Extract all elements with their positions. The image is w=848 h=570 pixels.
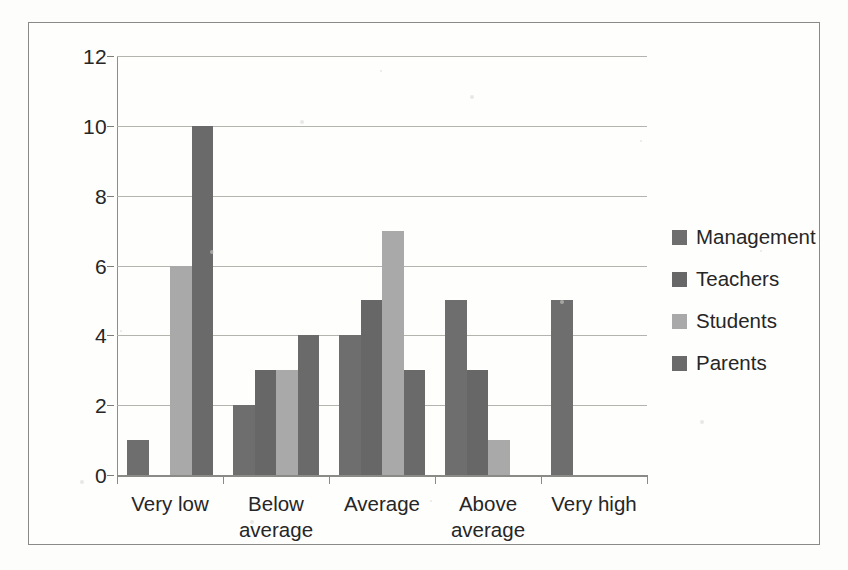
scan-speckle xyxy=(380,70,382,72)
y-tick-mark xyxy=(107,126,114,127)
scan-speckle xyxy=(640,140,642,142)
legend-item[interactable]: Teachers xyxy=(672,258,816,300)
y-tick-mark xyxy=(107,266,114,267)
x-tick-label-line: Very low xyxy=(117,491,223,517)
legend-label: Students xyxy=(696,311,777,332)
x-tick-mark xyxy=(435,475,436,484)
chart-frame: 024681012 Very lowBelowaverageAverageAbo… xyxy=(28,22,820,545)
legend-label: Teachers xyxy=(696,269,779,290)
x-tick-label: Average xyxy=(329,491,435,517)
legend-item[interactable]: Management xyxy=(672,216,816,258)
plot-area xyxy=(117,56,647,475)
legend-swatch-icon xyxy=(672,356,687,371)
scan-speckle xyxy=(560,300,564,304)
bar-group xyxy=(435,56,541,475)
bar-group xyxy=(223,56,329,475)
y-axis-labels: 024681012 xyxy=(59,56,107,475)
bar xyxy=(445,300,467,475)
y-tick-label: 2 xyxy=(95,395,107,416)
scanned-page: 024681012 Very lowBelowaverageAverageAbo… xyxy=(0,0,848,570)
bar xyxy=(255,370,277,475)
scan-speckle xyxy=(430,500,432,502)
y-tick-label: 0 xyxy=(95,465,107,486)
y-tick-mark xyxy=(107,475,114,476)
legend-swatch-icon xyxy=(672,230,687,245)
scan-speckle xyxy=(120,330,122,332)
bar xyxy=(361,300,383,475)
bar xyxy=(127,440,149,475)
legend-label: Parents xyxy=(696,353,767,374)
y-tick-label: 12 xyxy=(83,46,107,67)
y-tick-mark xyxy=(107,335,114,336)
scan-speckle xyxy=(250,520,254,524)
scan-speckle xyxy=(700,420,704,424)
bar xyxy=(382,231,404,475)
x-tick-label: Very high xyxy=(541,491,647,517)
scan-speckle xyxy=(300,120,304,124)
bar xyxy=(467,370,489,475)
bar xyxy=(170,266,192,476)
y-tick-label: 8 xyxy=(95,185,107,206)
x-axis-line xyxy=(117,475,648,477)
x-tick-label: Very low xyxy=(117,491,223,517)
scan-speckle xyxy=(80,480,84,484)
bar xyxy=(233,405,255,475)
x-tick-mark xyxy=(647,475,648,484)
x-tick-mark xyxy=(117,475,118,484)
bar-group xyxy=(117,56,223,475)
scan-speckle xyxy=(470,95,474,99)
bar xyxy=(298,335,320,475)
bar xyxy=(404,370,426,475)
x-tick-label-line: Above xyxy=(435,491,541,517)
bar xyxy=(192,126,214,475)
x-tick-label-line: average xyxy=(223,517,329,543)
y-tick-mark xyxy=(107,405,114,406)
bar-group xyxy=(541,56,647,475)
y-tick-label: 6 xyxy=(95,255,107,276)
bar xyxy=(551,300,573,475)
y-tick-label: 4 xyxy=(95,325,107,346)
x-tick-label-line: average xyxy=(435,517,541,543)
x-tick-label: Belowaverage xyxy=(223,491,329,543)
x-tick-mark xyxy=(541,475,542,484)
x-tick-label-line: Below xyxy=(223,491,329,517)
bar xyxy=(276,370,298,475)
legend-label: Management xyxy=(696,227,816,248)
x-tick-label-line: Very high xyxy=(541,491,647,517)
chart-legend: ManagementTeachersStudentsParents xyxy=(672,216,816,384)
x-tick-mark xyxy=(223,475,224,484)
bar xyxy=(488,440,510,475)
y-tick-label: 10 xyxy=(83,115,107,136)
legend-item[interactable]: Parents xyxy=(672,342,816,384)
x-tick-label-line: Average xyxy=(329,491,435,517)
bar xyxy=(339,335,361,475)
legend-item[interactable]: Students xyxy=(672,300,816,342)
x-tick-mark xyxy=(329,475,330,484)
legend-swatch-icon xyxy=(672,314,687,329)
x-tick-label: Aboveaverage xyxy=(435,491,541,543)
legend-swatch-icon xyxy=(672,272,687,287)
scan-speckle xyxy=(210,250,214,254)
scan-speckle xyxy=(760,250,762,252)
y-tick-mark xyxy=(107,196,114,197)
y-tick-mark xyxy=(107,56,114,57)
bar-group xyxy=(329,56,435,475)
